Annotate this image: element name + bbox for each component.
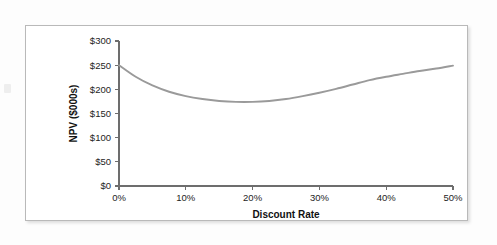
y-axis-title: NPV ($000s) <box>68 85 79 143</box>
x-tick-label: 40% <box>377 192 397 203</box>
y-tick-label: $200 <box>90 84 111 95</box>
x-tick-label: 30% <box>310 192 330 203</box>
x-tick-label: 20% <box>243 192 263 203</box>
y-tick-label: $50 <box>95 156 111 167</box>
npv-vs-discount-rate-line-chart: $0$50$100$150$200$250$3000%10%20%30%40%5… <box>26 26 467 220</box>
x-axis-title: Discount Rate <box>252 209 320 220</box>
x-tick-label: 50% <box>443 192 463 203</box>
y-tick-label: $100 <box>90 132 111 143</box>
y-tick-label: $0 <box>100 180 111 191</box>
scan-artifact-speck <box>4 84 11 93</box>
chart-figure-frame: $0$50$100$150$200$250$3000%10%20%30%40%5… <box>25 25 468 221</box>
npv-series-line <box>119 65 453 102</box>
page-background: $0$50$100$150$200$250$3000%10%20%30%40%5… <box>0 0 497 245</box>
y-tick-label: $250 <box>90 60 111 71</box>
y-tick-label: $150 <box>90 108 111 119</box>
x-tick-label: 0% <box>112 192 126 203</box>
y-tick-label: $300 <box>90 35 111 46</box>
x-tick-label: 10% <box>176 192 196 203</box>
chart-plot-area: $0$50$100$150$200$250$3000%10%20%30%40%5… <box>26 26 467 220</box>
